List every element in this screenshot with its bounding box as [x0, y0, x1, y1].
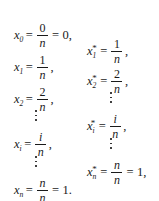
math-formula-block: x0 = 0 n = 0, x1 = 1 n , x2 =	[0, 0, 159, 201]
vertical-ellipsis	[109, 92, 113, 103]
equation-result: ,	[50, 61, 53, 74]
equals-sign: =	[100, 45, 107, 58]
fraction: 2 n	[37, 86, 48, 113]
equation-xstarn: xn* = n n = 1,	[87, 159, 146, 186]
var-subscript: 0	[20, 35, 24, 44]
equals-sign-2: =	[52, 184, 59, 197]
equals-sign: =	[26, 184, 33, 197]
equation-result: ,	[50, 93, 53, 106]
ellipsis-dot	[110, 92, 112, 94]
fraction-denominator: n	[38, 100, 46, 113]
asterisk-superscript: *	[92, 73, 97, 83]
equals-sign: =	[100, 166, 107, 179]
equals-sign: =	[24, 138, 31, 151]
vertical-ellipsis	[34, 156, 38, 167]
fraction-numerator: 1	[38, 54, 46, 67]
asterisk-superscript: *	[91, 118, 96, 128]
var-subscript: n	[20, 190, 24, 199]
var-subscript: i	[20, 144, 22, 153]
equals-sign: =	[26, 61, 33, 74]
variable-x2: x2	[14, 93, 23, 106]
fraction: n n	[37, 177, 48, 201]
equation-result: 1.	[62, 184, 71, 197]
fraction-denominator: n	[113, 82, 121, 95]
equation-result: ,	[125, 45, 128, 58]
var-letter: x	[14, 183, 20, 197]
fraction: 1 n	[111, 38, 122, 65]
var-letter: x	[14, 28, 20, 42]
asterisk-superscript: *	[92, 164, 97, 174]
equation-xn: xn = n n = 1.	[14, 177, 72, 201]
fraction: i n	[110, 113, 121, 140]
fraction-numerator: 2	[113, 68, 121, 81]
ellipsis-dot	[35, 115, 37, 117]
fraction: n n	[111, 159, 122, 186]
ellipsis-dot	[110, 97, 112, 99]
fraction: 0 n	[37, 22, 48, 49]
ellipsis-dot	[110, 143, 112, 145]
equation-result: ,	[123, 120, 126, 133]
equation-xstari: xi* = i n ,	[87, 113, 126, 140]
var-subscript: 1	[20, 67, 24, 76]
var-letter: x	[14, 60, 20, 74]
equation-result: ,	[125, 75, 128, 88]
variable-xi: xi	[14, 138, 22, 151]
fraction: 1 n	[37, 54, 48, 81]
ellipsis-dot	[35, 119, 37, 121]
var-letter: x	[14, 92, 20, 106]
equation-xstar2: x2* = 2 n ,	[87, 68, 128, 95]
equation-x2: x2 = 2 n ,	[14, 86, 54, 113]
fraction-numerator: i	[113, 113, 118, 126]
var-letter: x	[14, 137, 20, 151]
fraction-numerator: 0	[38, 22, 46, 35]
equals-sign-2: =	[126, 166, 133, 179]
equation-xstar1: x1* = 1 n ,	[87, 38, 128, 65]
ellipsis-dot	[110, 138, 112, 140]
vertical-ellipsis	[109, 138, 113, 149]
variable-xstar1: x1*	[87, 45, 101, 58]
variable-x0: x0	[14, 29, 23, 42]
ellipsis-dot	[35, 165, 37, 167]
equals-sign: =	[99, 120, 106, 133]
asterisk-superscript: *	[92, 43, 97, 53]
fraction-numerator: i	[38, 131, 43, 144]
variable-xstar2: x2*	[87, 75, 101, 88]
fraction-numerator: 1	[113, 38, 121, 51]
fraction: 2 n	[111, 68, 122, 95]
fraction-denominator: n	[38, 68, 46, 81]
fraction-denominator: n	[113, 173, 121, 186]
fraction-numerator: n	[113, 159, 121, 172]
variable-xstarn: xn*	[87, 166, 101, 179]
variable-xn: xn	[14, 184, 23, 197]
equation-x1: x1 = 1 n ,	[14, 54, 54, 81]
equation-x0: x0 = 0 n = 0,	[14, 22, 72, 49]
ellipsis-dot	[35, 110, 37, 112]
fraction-denominator: n	[38, 36, 46, 49]
fraction-numerator: n	[38, 177, 46, 190]
equation-result: 0,	[62, 29, 71, 42]
vertical-ellipsis	[34, 110, 38, 121]
equation-result: 1,	[137, 166, 146, 179]
equals-sign-2: =	[52, 29, 59, 42]
var-subscript: 2	[20, 99, 24, 108]
equation-result: ,	[49, 138, 52, 151]
ellipsis-dot	[110, 147, 112, 149]
ellipsis-dot	[35, 156, 37, 158]
variable-xstari: xi*	[87, 120, 99, 133]
variable-x1: x1	[14, 61, 23, 74]
equals-sign: =	[26, 29, 33, 42]
ellipsis-dot	[110, 101, 112, 103]
fraction-denominator: n	[38, 191, 46, 201]
fraction-denominator: n	[113, 52, 121, 65]
fraction: i n	[35, 131, 46, 158]
equals-sign: =	[26, 93, 33, 106]
equals-sign: =	[100, 75, 107, 88]
fraction-numerator: 2	[38, 86, 46, 99]
equation-xi: xi = i n ,	[14, 131, 52, 158]
ellipsis-dot	[35, 161, 37, 163]
